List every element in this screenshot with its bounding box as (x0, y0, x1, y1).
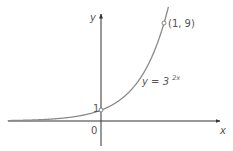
origin-label: 0 (91, 125, 97, 136)
equation-exponent: 2x (172, 74, 180, 82)
x-axis-label: x (219, 125, 226, 136)
point-1-9-marker (162, 21, 166, 25)
point-1-9-label: (1, 9) (168, 18, 195, 29)
y-intercept-label: 1 (93, 103, 99, 114)
curve-y-equals-3-pow-2x (8, 7, 169, 121)
equation-base: y = 3 (141, 76, 169, 87)
curve-equation-label: y = 3 2x (141, 74, 180, 87)
point-0-1-marker (99, 108, 103, 112)
y-axis-label: y (89, 12, 97, 23)
exponential-graph: y x 0 1 (1, 9) y = 3 2x (0, 0, 233, 151)
